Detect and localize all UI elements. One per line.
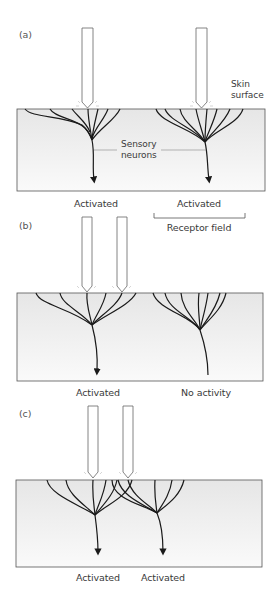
panel-c-outcome-right: Activated <box>141 572 185 583</box>
panel-b-outcome-right: No activity <box>181 387 231 398</box>
sensory-neurons-label-line1: Sensory <box>121 139 157 150</box>
sensory-neurons-label: Sensory neurons <box>121 139 157 161</box>
panel-a-outcome-left: Activated <box>74 198 118 209</box>
receptor-field-label: Receptor field <box>167 222 232 233</box>
pressure-marks-a <box>76 101 213 106</box>
panel-c-graphics <box>16 406 262 567</box>
panel-a-graphics <box>17 28 265 218</box>
panel-c-outcome-left: Activated <box>76 572 120 583</box>
skin-surface-label-line2: surface <box>231 90 264 101</box>
probe-a-left <box>82 28 93 108</box>
panel-b-graphics <box>17 217 263 381</box>
probe-c-right <box>123 406 133 478</box>
receptor-field-bracket <box>154 213 245 218</box>
sensory-neurons-label-line2: neurons <box>121 150 157 161</box>
panel-a-label: (a) <box>19 29 32 40</box>
panel-b-label: (b) <box>19 220 32 231</box>
panel-b-outcome-left: Activated <box>76 387 120 398</box>
probe-c-left <box>88 406 98 478</box>
probe-b-left <box>82 217 92 292</box>
probe-a-right <box>196 28 207 108</box>
panel-a-outcome-right: Activated <box>177 198 221 209</box>
panel-c-label: (c) <box>19 408 31 419</box>
skin-surface-label-line1: Skin <box>231 79 264 90</box>
receptive-field-diagram: (a) Skin surface Sensory neurons Activat… <box>0 0 277 597</box>
probe-b-right <box>117 217 127 292</box>
skin-block-c <box>16 480 262 567</box>
skin-surface-label: Skin surface <box>231 79 264 101</box>
